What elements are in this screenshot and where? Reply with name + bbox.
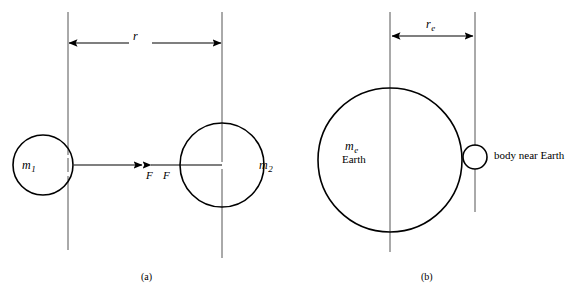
mass-label-m1: m1 [22, 159, 36, 174]
panel-a-group [13, 12, 264, 258]
panel-b-group [318, 12, 487, 252]
gravitation-figure: m1 m2 r F F (a) me Earth re body near Ea… [0, 0, 575, 305]
body-circle [463, 145, 487, 169]
panel-b-caption: (b) [421, 272, 433, 282]
body-near-earth-label: body near Earth [494, 150, 564, 161]
distance-label-r: r [133, 30, 138, 42]
force-label-right: F [163, 170, 170, 181]
mass-label-m2: m2 [259, 159, 273, 174]
force-label-left: F [146, 170, 153, 181]
panel-a-caption: (a) [141, 272, 152, 282]
earth-name-label: Earth [342, 154, 366, 165]
figure-drawing-canvas [0, 0, 575, 305]
distance-label-re: re [426, 18, 435, 33]
